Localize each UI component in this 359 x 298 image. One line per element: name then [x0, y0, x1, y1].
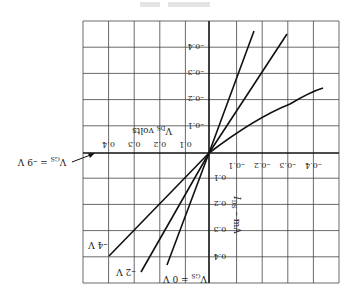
tick-right-4: –0.4 — [305, 161, 322, 170]
tick-down-3: 0.3 — [214, 225, 227, 234]
label-vgs-0v: VGS = 0 V — [163, 273, 208, 284]
curve-saturating — [209, 88, 323, 153]
vgs-9v-arrow — [72, 153, 95, 162]
tick-right-1: –0.1 — [228, 161, 245, 170]
tick-up-1: –0.4 — [188, 42, 205, 51]
tick-left-3: 0.3 — [128, 140, 141, 149]
tick-right-3: –0.3 — [279, 161, 296, 170]
tick-down-4: 0.4 — [214, 252, 227, 261]
tick-down-1: 0.1 — [214, 173, 227, 182]
tick-down-2: 0.2 — [214, 199, 227, 208]
tick-up-2: –0.3 — [188, 68, 205, 77]
x-axis-label: VDS volts — [132, 125, 173, 136]
x-ticks-right: –0.1 –0.2 –0.3 –0.4 — [228, 161, 322, 170]
y-ticks-lower: 0.1 0.2 0.3 0.4 — [214, 173, 227, 261]
x-ticks-left: 0.4 0.3 0.2 0.1 — [102, 140, 192, 149]
tick-left-2: 0.2 — [153, 140, 166, 149]
y-axis-label: IDS – mA — [231, 195, 242, 234]
tick-left-1: 0.1 — [179, 140, 192, 149]
label-vgs-minus4v: –4 V — [88, 240, 108, 250]
y-ticks-upper: –0.4 –0.3 –0.2 –0.1 — [188, 42, 205, 130]
tick-up-4: –0.1 — [188, 121, 205, 130]
tick-left-4: 0.4 — [102, 140, 115, 149]
jfet-characteristic-chart: –0.4 –0.3 –0.2 –0.1 0.1 0.2 0.3 0.4 0.4 … — [0, 0, 359, 298]
tick-right-2: –0.2 — [254, 161, 271, 170]
label-vgs-minus9v: VGS = –9 V — [17, 156, 67, 167]
caption-fragment — [140, 2, 210, 7]
tick-up-3: –0.2 — [188, 94, 205, 103]
label-vgs-minus2v: –2 V — [116, 267, 136, 277]
